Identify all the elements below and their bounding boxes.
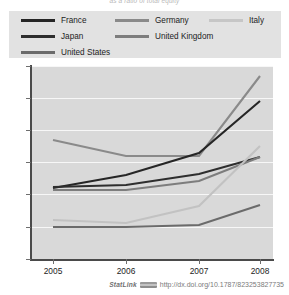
y-tick: [26, 66, 31, 67]
series-line-italy: [53, 146, 260, 223]
statlink-url[interactable]: http://dx.doi.org/10.1787/823253827735: [160, 281, 284, 288]
y-tick: [26, 227, 31, 228]
x-tick-label: 2005: [33, 266, 73, 276]
legend-swatch-united-kingdom: [115, 35, 149, 38]
legend-label-japan: Japan: [61, 31, 83, 42]
x-tick: [260, 259, 261, 264]
legend-swatch-france: [21, 19, 55, 22]
y-tick: [26, 194, 31, 195]
x-tick-label: 2007: [179, 266, 219, 276]
x-axis: [30, 259, 274, 261]
statlink-footer: StatLinkhttp://dx.doi.org/10.1787/823253…: [0, 281, 289, 288]
y-tick: [26, 259, 31, 260]
y-tick: [26, 98, 31, 99]
y-tick: [26, 130, 31, 131]
series-line-germany: [53, 76, 260, 156]
legend-swatch-italy: [209, 19, 243, 22]
chart-legend: France Germany Italy Japan United Kingdo…: [9, 11, 281, 58]
x-tick-label: 2006: [106, 266, 146, 276]
series-line-france: [53, 101, 260, 188]
legend-label-united-kingdom: United Kingdom: [155, 31, 213, 42]
x-tick: [126, 259, 127, 264]
statlink-badge-icon: [140, 282, 157, 288]
statlink-label: StatLink: [109, 281, 137, 288]
legend-label-germany: Germany: [155, 15, 189, 26]
legend-swatch-germany: [115, 19, 149, 22]
chart-title: as a ratio of total equity: [0, 0, 289, 4]
y-tick: [26, 162, 31, 163]
figure: as a ratio of total equity France German…: [0, 0, 289, 295]
legend-swatch-japan: [21, 35, 55, 38]
legend-swatch-united-states: [21, 51, 55, 54]
x-tick: [53, 259, 54, 264]
series-line-united-kingdom: [53, 157, 260, 190]
x-tick: [199, 259, 200, 264]
x-tick-label: 2008: [240, 266, 280, 276]
legend-label-italy: Italy: [249, 15, 264, 26]
data-lines: [31, 66, 273, 259]
legend-label-united-states: United States: [61, 47, 110, 58]
legend-label-france: France: [61, 15, 86, 26]
